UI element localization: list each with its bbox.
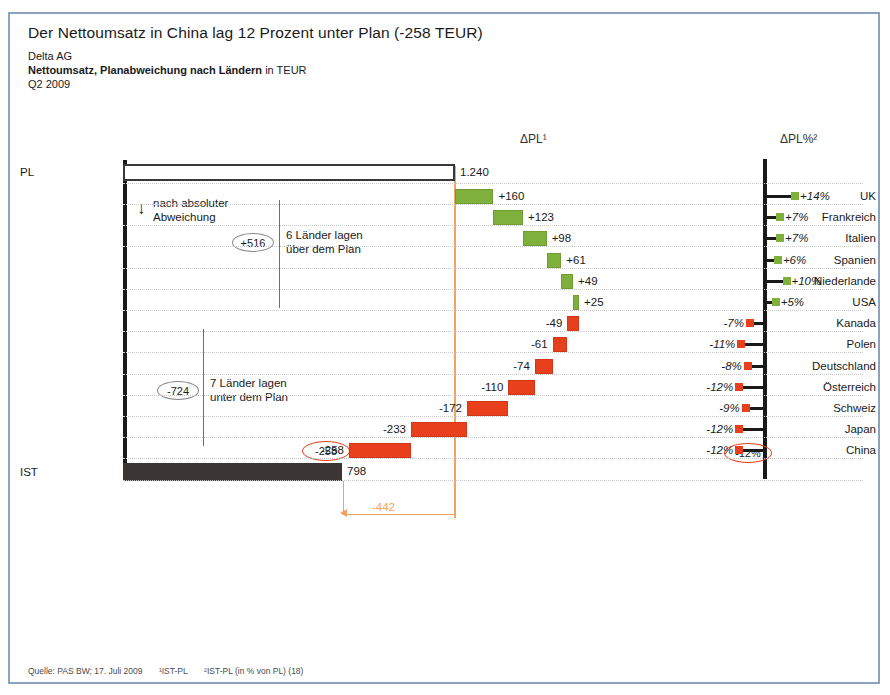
percent-marker: [735, 425, 743, 433]
negative-group-brace: [203, 329, 204, 446]
row-label-deutschland: Deutschland: [770, 360, 882, 372]
waterfall-bar-japan: [411, 422, 467, 437]
gridline: [123, 480, 863, 481]
percent-marker: [772, 298, 780, 306]
percent-label: +5%: [781, 296, 804, 308]
gridline: [123, 331, 863, 332]
positive-subtotal-badge: +516: [232, 233, 274, 252]
row-label-polen: Polen: [770, 338, 882, 350]
negative-note-line1: 7 Länder lagen: [210, 376, 288, 390]
value-label-japan: -233: [368, 423, 406, 435]
plan-total-value: 1.240: [460, 166, 489, 178]
percent-marker: [783, 277, 791, 285]
measure-total-label: -442: [372, 501, 395, 513]
waterfall-bar-polen: [553, 337, 568, 352]
measure-arrowhead-icon: [340, 509, 347, 517]
gridline: [123, 416, 863, 417]
negative-subtotal-badge: -724: [157, 381, 199, 400]
slide-frame: Der Nettoumsatz in China lag 12 Prozent …: [8, 12, 880, 684]
waterfall-bar-usa: [573, 295, 579, 310]
gridline: [123, 246, 863, 247]
percent-label: -12%: [691, 423, 733, 435]
gridline: [123, 374, 863, 375]
percent-label: +7%: [785, 211, 808, 223]
measure-arrow-line: [343, 514, 455, 515]
row-label-kanada: Kanada: [770, 317, 882, 329]
value-label-sterreich: -110: [465, 381, 503, 393]
value-label-niederlande: +49: [578, 275, 598, 287]
value-label-polen: -61: [510, 338, 548, 350]
value-label-china: -258: [306, 444, 344, 456]
percent-marker: [774, 256, 782, 264]
gridline: [123, 268, 863, 269]
row-label-schweiz: Schweiz: [770, 402, 882, 414]
gridline: [123, 289, 863, 290]
percent-label: -12%: [691, 381, 733, 393]
actual-total-value: 798: [347, 465, 366, 477]
waterfall-plot: 1.240 PL 798 IST ↓ nach absoluter Abweic…: [10, 14, 882, 686]
sort-note-line1: nach absoluter: [139, 196, 228, 210]
positive-note-line1: 6 Länder lagen: [286, 228, 363, 242]
gridline: [123, 437, 863, 438]
waterfall-bar-deutschland: [535, 359, 553, 374]
waterfall-bar-china: [349, 443, 411, 458]
value-label-usa: +25: [584, 296, 604, 308]
percent-marker: [791, 192, 799, 200]
negative-note-line2: unter dem Plan: [210, 390, 288, 404]
value-label-uk: +160: [498, 190, 524, 202]
footer: Quelle: PAS BW; 17. Juli 2009 ¹IST-PL ²I…: [28, 666, 317, 676]
waterfall-bar-frankreich: [493, 210, 523, 225]
value-label-deutschland: -74: [492, 360, 530, 372]
row-label-actual: IST: [10, 466, 122, 478]
gridline: [123, 310, 863, 311]
positive-note-line2: über dem Plan: [286, 242, 363, 256]
percent-marker: [776, 234, 784, 242]
percent-label: +14%: [800, 190, 830, 202]
actual-total-bar: [123, 463, 342, 481]
percent-label: -9%: [698, 402, 740, 414]
percent-label: +10%: [792, 275, 822, 287]
waterfall-bar-italien: [523, 231, 547, 246]
negative-group-note: 7 Länder lagen unter dem Plan: [210, 376, 288, 404]
gridline: [123, 395, 863, 396]
row-label-china: China: [770, 444, 882, 456]
percent-marker: [737, 340, 745, 348]
plan-total-bar: [123, 164, 455, 181]
percent-marker: [742, 404, 750, 412]
waterfall-bar-kanada: [567, 316, 579, 331]
percent-label: -11%: [693, 338, 735, 350]
value-label-italien: +98: [552, 232, 572, 244]
plan-reference-line: [454, 166, 456, 518]
percent-label: +6%: [783, 254, 806, 266]
value-label-spanien: +61: [566, 254, 586, 266]
row-label-sterreich: Österreich: [770, 381, 882, 393]
positive-group-note: 6 Länder lagen über dem Plan: [286, 228, 363, 256]
gridline: [123, 225, 863, 226]
gridline: [123, 183, 863, 184]
footer-note-1: ¹IST-PL: [159, 666, 188, 676]
sort-note: nach absoluter Abweichung: [139, 196, 228, 224]
footer-note-2: ²IST-PL (in % von PL) (18): [204, 666, 303, 676]
percent-label: -12%: [691, 444, 733, 456]
sort-note-line2: Abweichung: [139, 210, 228, 224]
waterfall-bar-spanien: [547, 253, 562, 268]
waterfall-bar-schweiz: [467, 401, 508, 416]
row-label-japan: Japan: [770, 423, 882, 435]
percent-label: -8%: [700, 360, 742, 372]
percent-marker: [746, 319, 754, 327]
percent-marker: [735, 383, 743, 391]
percent-marker: [735, 446, 743, 454]
gridline: [123, 458, 863, 459]
value-label-schweiz: -172: [424, 402, 462, 414]
row-label-plan: PL: [10, 166, 122, 178]
value-label-kanada: -49: [524, 317, 562, 329]
measure-right-tick: [454, 481, 455, 515]
gridline: [123, 352, 863, 353]
waterfall-bar-uk: [455, 189, 493, 204]
value-label-frankreich: +123: [528, 211, 554, 223]
gridline: [123, 204, 863, 205]
positive-group-brace: [279, 200, 280, 308]
category-axis: [123, 160, 127, 476]
percent-marker: [776, 213, 784, 221]
percent-label: +7%: [785, 232, 808, 244]
